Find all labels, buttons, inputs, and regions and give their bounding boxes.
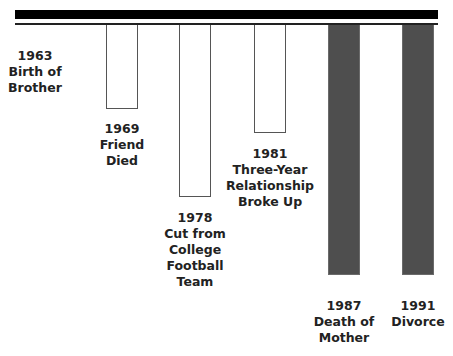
top-band — [15, 10, 438, 19]
label-1969: 1969 Friend Died — [67, 121, 177, 169]
baseline — [15, 23, 438, 25]
label-1991: 1991 Divorce — [363, 298, 453, 330]
bar-1981 — [254, 25, 286, 133]
bar-1978 — [179, 25, 211, 197]
label-1978: 1978 Cut from College Football Team — [140, 210, 250, 290]
label-1963: 1963 Birth of Brother — [0, 48, 90, 96]
bar-1987 — [328, 25, 360, 275]
bar-1969 — [106, 25, 138, 109]
bar-1991 — [402, 25, 434, 275]
label-1981: 1981 Three-Year Relationship Broke Up — [215, 146, 325, 210]
